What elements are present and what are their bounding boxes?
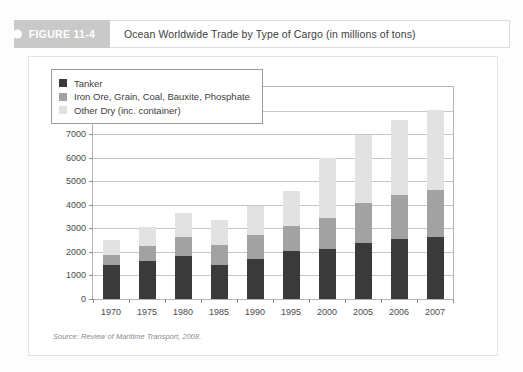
bar-segment [391, 120, 408, 195]
bar-segment [391, 239, 408, 299]
x-axis-label: 2006 [389, 307, 409, 317]
x-axis-tick [345, 299, 346, 303]
y-axis-label: 4000 [66, 200, 86, 210]
bar-stack [355, 135, 372, 299]
y-axis-tick [89, 252, 93, 253]
bar-stack [427, 110, 444, 299]
bar-segment [247, 259, 264, 299]
bar-segment [139, 246, 156, 261]
legend-item: Iron Ore, Grain, Coal, Bauxite, Phosphat… [59, 91, 250, 102]
x-axis-tick [453, 299, 454, 303]
bar-segment [211, 265, 228, 299]
y-axis-tick [89, 205, 93, 206]
legend-item: Tanker [59, 78, 250, 89]
bar-segment [355, 203, 372, 243]
legend-swatch-icon [59, 79, 67, 87]
legend-swatch-icon [59, 106, 67, 114]
bar-segment [175, 213, 192, 237]
bar-stack [319, 158, 336, 299]
y-axis-label: 2000 [66, 247, 86, 257]
bar-segment [283, 191, 300, 225]
bar-segment [211, 245, 228, 265]
x-axis-tick [93, 299, 94, 303]
bar-segment [427, 110, 444, 190]
x-axis-tick [309, 299, 310, 303]
bar-segment [427, 190, 444, 237]
bar-segment [175, 256, 192, 299]
figure-number-label: FIGURE 11-4 [29, 28, 95, 40]
bar-segment [319, 218, 336, 248]
figure-title-bar: Ocean Worldwide Trade by Type of Cargo (… [110, 20, 510, 48]
bar-stack [283, 191, 300, 299]
legend-item-label: Iron Ore, Grain, Coal, Bauxite, Phosphat… [74, 91, 250, 102]
bar-segment [355, 135, 372, 204]
legend-item-label: Other Dry (inc. container) [74, 105, 181, 116]
bar-segment [355, 243, 372, 299]
y-axis-label: 3000 [66, 223, 86, 233]
source-note: Source: Review of Maritime Transport, 20… [53, 332, 201, 341]
bar-segment [427, 237, 444, 299]
bar-segment [283, 251, 300, 299]
x-axis-label: 1995 [281, 307, 301, 317]
y-axis-label: 0 [81, 294, 86, 304]
chart-legend: TankerIron Ore, Grain, Coal, Bauxite, Ph… [51, 69, 263, 124]
x-axis-label: 2007 [425, 307, 445, 317]
y-axis-label: 6000 [66, 153, 86, 163]
y-axis-tick [89, 134, 93, 135]
y-axis-tick [89, 275, 93, 276]
x-axis-tick [237, 299, 238, 303]
legend-item-label: Tanker [74, 78, 103, 89]
bar-stack [175, 213, 192, 299]
bar-stack [211, 220, 228, 299]
bar-segment [103, 255, 120, 265]
x-axis-label: 1985 [209, 307, 229, 317]
bar-segment [139, 227, 156, 245]
figure-panel: FIGURE 11-4 Ocean Worldwide Trade by Typ… [0, 0, 523, 372]
bar-segment [103, 240, 120, 255]
y-axis-tick [89, 228, 93, 229]
bar-segment [175, 237, 192, 256]
x-axis-tick [273, 299, 274, 303]
bar-segment [283, 226, 300, 252]
x-axis-tick [129, 299, 130, 303]
x-axis-label: 1975 [137, 307, 157, 317]
legend-swatch-icon [59, 93, 67, 101]
y-axis-label: 7000 [66, 129, 86, 139]
bar-segment [319, 158, 336, 219]
badge-notch-icon [13, 30, 22, 39]
bar-segment [247, 235, 264, 259]
x-axis-tick [201, 299, 202, 303]
chart-card: 0100020003000400050006000700080009000197… [28, 56, 498, 356]
figure-number-badge: FIGURE 11-4 [14, 20, 110, 48]
x-axis-label: 1970 [101, 307, 121, 317]
bar-stack [103, 240, 120, 299]
x-axis-tick [417, 299, 418, 303]
x-axis-tick [381, 299, 382, 303]
y-axis-label: 5000 [66, 176, 86, 186]
bar-segment [139, 261, 156, 299]
bar-segment [211, 220, 228, 245]
page-title: Ocean Worldwide Trade by Type of Cargo (… [124, 28, 416, 40]
bar-segment [319, 249, 336, 299]
bar-segment [103, 265, 120, 299]
bar-stack [139, 227, 156, 299]
y-axis-tick [89, 181, 93, 182]
y-axis-tick [89, 158, 93, 159]
bar-stack [247, 206, 264, 299]
bar-segment [247, 206, 264, 235]
bar-stack [391, 120, 408, 299]
x-axis-label: 1990 [245, 307, 265, 317]
legend-item: Other Dry (inc. container) [59, 105, 250, 116]
bar-segment [391, 195, 408, 239]
y-axis-label: 1000 [66, 270, 86, 280]
x-axis-tick [165, 299, 166, 303]
x-axis-label: 2000 [317, 307, 337, 317]
x-axis-label: 1980 [173, 307, 193, 317]
figure-header: FIGURE 11-4 Ocean Worldwide Trade by Typ… [14, 20, 510, 48]
x-axis-label: 2005 [353, 307, 373, 317]
